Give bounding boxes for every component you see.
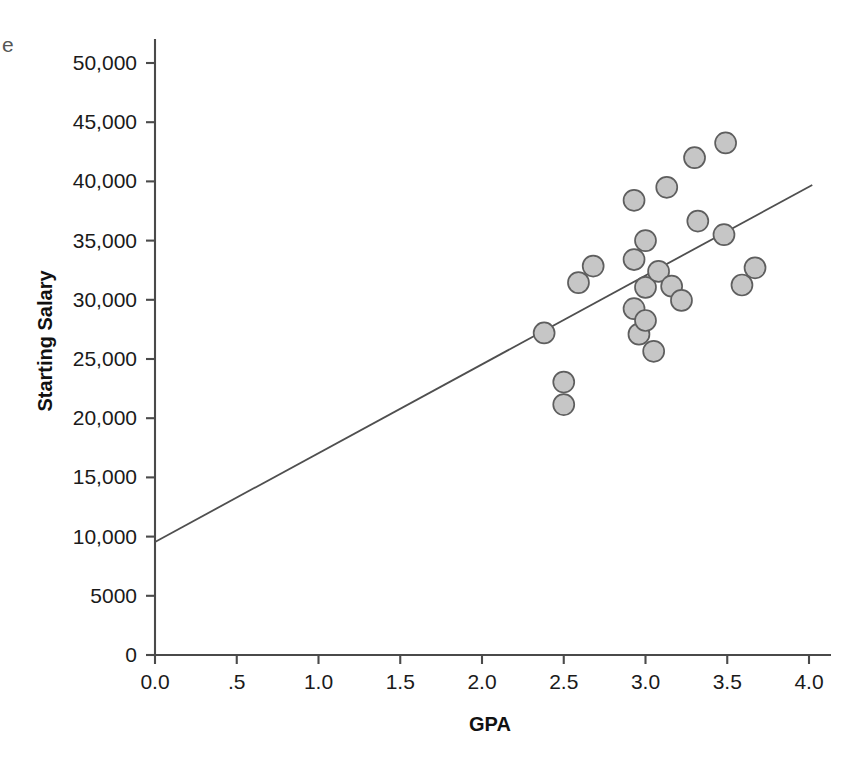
data-point [568,272,589,293]
data-point [553,372,574,393]
x-tick-label: 3.5 [713,670,742,693]
y-tick-label: 0 [125,643,137,666]
data-point [553,394,574,415]
x-axis-title: GPA [469,713,511,735]
chart-canvas: e 0500010,00015,00020,00025,00030,00035,… [0,0,865,763]
data-point [635,310,656,331]
y-axis-title: Starting Salary [34,270,56,412]
data-point [684,147,705,168]
data-point [687,211,708,232]
x-tick-label: .5 [228,670,246,693]
data-point [731,275,752,296]
data-point [534,322,555,343]
y-tick-label: 5000 [90,584,137,607]
y-tick-label: 10,000 [73,525,137,548]
x-tick-label: 1.0 [304,670,333,693]
y-tick-label: 50,000 [73,51,137,74]
data-point [671,290,692,311]
x-tick-label: 2.5 [549,670,578,693]
y-tick-label: 15,000 [73,465,137,488]
x-tick-label: 0.0 [140,670,169,693]
cropped-edge-text: e [2,33,14,56]
data-point [624,249,645,270]
y-tick-label: 30,000 [73,288,137,311]
data-point [643,341,664,362]
data-point [715,132,736,153]
y-tick-label: 20,000 [73,406,137,429]
y-tick-label: 40,000 [73,169,137,192]
y-tick-label: 45,000 [73,110,137,133]
y-tick-label: 35,000 [73,229,137,252]
data-point [656,177,677,198]
y-tick-label: 25,000 [73,347,137,370]
data-point [624,190,645,211]
data-point [635,230,656,251]
data-point [583,256,604,277]
x-tick-label: 1.5 [386,670,415,693]
x-tick-label: 2.0 [467,670,496,693]
x-tick-label: 3.0 [631,670,660,693]
scatter-plot-figure: e 0500010,00015,00020,00025,00030,00035,… [0,0,865,763]
data-point [713,224,734,245]
data-point [745,257,766,278]
x-tick-label: 4.0 [794,670,823,693]
